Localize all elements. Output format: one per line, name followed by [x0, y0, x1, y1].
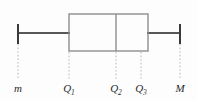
box-group: [69, 14, 148, 51]
label-q3: Q3: [135, 82, 147, 97]
boxplot-canvas: m Q1 Q2 Q3 M: [0, 0, 197, 101]
axis-labels-group: m Q1 Q2 Q3 M: [14, 82, 185, 97]
label-min: m: [14, 82, 22, 94]
boxplot-figure: m Q1 Q2 Q3 M: [0, 0, 197, 101]
label-max: M: [174, 82, 185, 94]
iqr-box: [69, 14, 148, 51]
guide-lines-group: [18, 44, 180, 80]
label-q1: Q1: [63, 82, 75, 97]
whiskers-group: [18, 24, 180, 44]
label-q2: Q2: [110, 82, 122, 97]
